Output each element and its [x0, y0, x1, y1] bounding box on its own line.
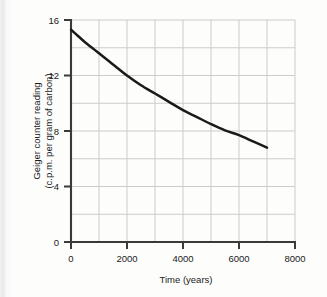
y-tick-label: 8 [54, 126, 59, 137]
x-tick-label: 2000 [116, 253, 137, 264]
x-tick-label: 4000 [172, 253, 193, 264]
x-axis-tick-labels: 02000400060008000 [68, 253, 305, 264]
y-tick-label: 4 [54, 181, 59, 192]
line-chart: 0481216 02000400060008000 Geiger counter… [0, 0, 327, 297]
x-axis-title: Time (years) [160, 274, 213, 285]
x-tick-label: 0 [68, 253, 73, 264]
minor-gridlines [71, 20, 295, 242]
y-tick-label: 16 [48, 15, 59, 26]
x-tick-label: 8000 [284, 253, 305, 264]
x-tick-label: 6000 [228, 253, 249, 264]
figure-canvas: 0481216 02000400060008000 Geiger counter… [0, 0, 327, 297]
y-axis-title-line1: Geiger counter reading [31, 82, 42, 179]
y-axis-title-line2: (c.p.m. per gram of carbon) [43, 73, 54, 188]
y-tick-label: 0 [54, 237, 59, 248]
